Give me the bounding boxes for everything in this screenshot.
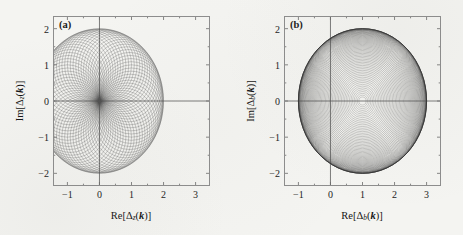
- x-axis-title-a: Re[Δz(k)]: [111, 210, 152, 222]
- y-tick-label: −2: [31, 168, 49, 179]
- plot-area-a: (a): [53, 16, 210, 186]
- figure: (a) −10123−2−1012 Re[Δz(k)] Im[Δz(k)] (b…: [0, 0, 463, 235]
- y-tick-label: 0: [262, 96, 280, 107]
- y-tick-label: 1: [262, 59, 280, 70]
- y-tick-label: 2: [262, 23, 280, 34]
- panel-a: (a) −10123−2−1012 Re[Δz(k)] Im[Δz(k)]: [0, 0, 231, 235]
- x-axis-title-b: Re[Δb(k)]: [341, 210, 382, 222]
- x-tick-label: −1: [62, 189, 73, 200]
- x-tick-label: 2: [161, 189, 166, 200]
- x-tick-label: 1: [360, 189, 365, 200]
- y-tick-label: 1: [31, 59, 49, 70]
- x-tick-label: 3: [424, 189, 429, 200]
- x-tick-label: −1: [293, 189, 304, 200]
- y-axis-title-b: Im[Δb(k)]: [245, 80, 257, 121]
- x-tick-label: 0: [97, 189, 102, 200]
- plot-frame-a: [53, 16, 210, 186]
- y-tick-label: −2: [262, 168, 280, 179]
- panel-label-b: (b): [290, 19, 303, 30]
- y-tick-label: −1: [31, 132, 49, 143]
- panel-b: (b) −10123−2−1012 Re[Δb(k)] Im[Δb(k)]: [231, 0, 462, 235]
- y-axis-title-a: Im[Δz(k)]: [14, 81, 26, 122]
- x-tick-label: 3: [193, 189, 198, 200]
- x-tick-label: 2: [392, 189, 397, 200]
- y-tick-label: −1: [262, 132, 280, 143]
- panel-label-a: (a): [59, 19, 71, 30]
- x-tick-label: 1: [129, 189, 134, 200]
- plot-area-b: (b): [284, 16, 441, 186]
- y-tick-label: 2: [31, 23, 49, 34]
- plot-frame-b: [284, 16, 441, 186]
- x-tick-label: 0: [328, 189, 333, 200]
- y-tick-label: 0: [31, 96, 49, 107]
